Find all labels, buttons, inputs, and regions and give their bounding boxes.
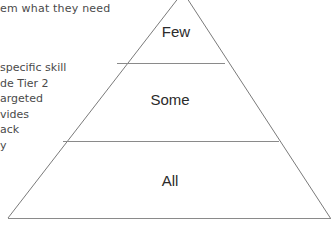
tier-label-all: All bbox=[162, 172, 179, 189]
tier-label-few: Few bbox=[162, 23, 190, 40]
tier-label-some: Some bbox=[150, 91, 189, 108]
pyramid-right-edge bbox=[183, 0, 331, 219]
pyramid-left-edge bbox=[8, 0, 183, 218]
